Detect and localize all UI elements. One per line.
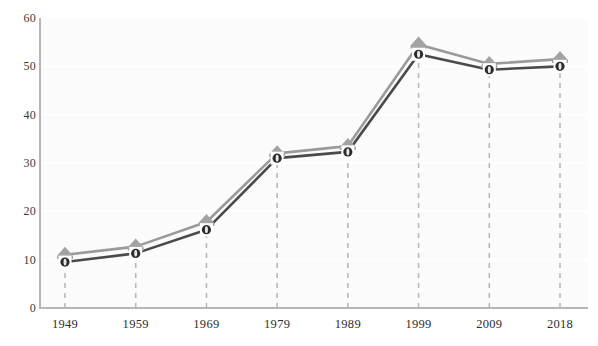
x-tick-label: 1949 (35, 317, 95, 331)
x-tick-label: 1969 (176, 317, 236, 331)
x-tick-label: 1959 (106, 317, 166, 331)
x-tick-label: 1999 (389, 317, 449, 331)
x-tick-label: 1979 (247, 317, 307, 331)
x-tick-label: 2009 (459, 317, 519, 331)
x-tick-label: 1989 (318, 317, 378, 331)
x-tick-label: 2018 (530, 317, 590, 331)
line-chart: 0102030405060 19491959196919791989199920… (0, 0, 598, 346)
x-axis-tick-labels: 19491959196919791989199920092018 (0, 0, 598, 346)
